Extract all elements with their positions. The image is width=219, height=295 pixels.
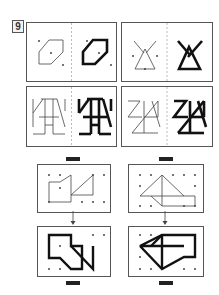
- exercise-left-answer: [37, 226, 111, 277]
- example-star-figure: [121, 86, 213, 147]
- answer-blank-left-top: [66, 157, 80, 161]
- answer-blank-left: [66, 281, 80, 285]
- example-triangle-cross: [121, 22, 213, 82]
- exercise-right-answer: [128, 226, 204, 277]
- exercise-right-grid: [128, 164, 204, 213]
- triangle-cross-figure: [122, 23, 212, 81]
- star-figure: [122, 87, 212, 146]
- answer-blank-right: [159, 281, 173, 285]
- exercise-left-answer-figure: [38, 227, 110, 276]
- hexagon-figure: [27, 23, 116, 81]
- arrow-down-icon: [162, 211, 168, 226]
- exercise-right-answer-figure: [129, 227, 203, 276]
- example-ladder-figure: [26, 86, 117, 147]
- exercise-left-figure: [38, 165, 110, 212]
- arrow-down-icon: [70, 211, 76, 226]
- exercise-left-grid: [37, 164, 111, 213]
- ladder-figure: [27, 87, 116, 146]
- puzzle-number: 9: [12, 20, 24, 33]
- exercise-right-figure: [129, 165, 203, 212]
- answer-blank-right-top: [159, 157, 173, 161]
- example-hexagon: [26, 22, 117, 82]
